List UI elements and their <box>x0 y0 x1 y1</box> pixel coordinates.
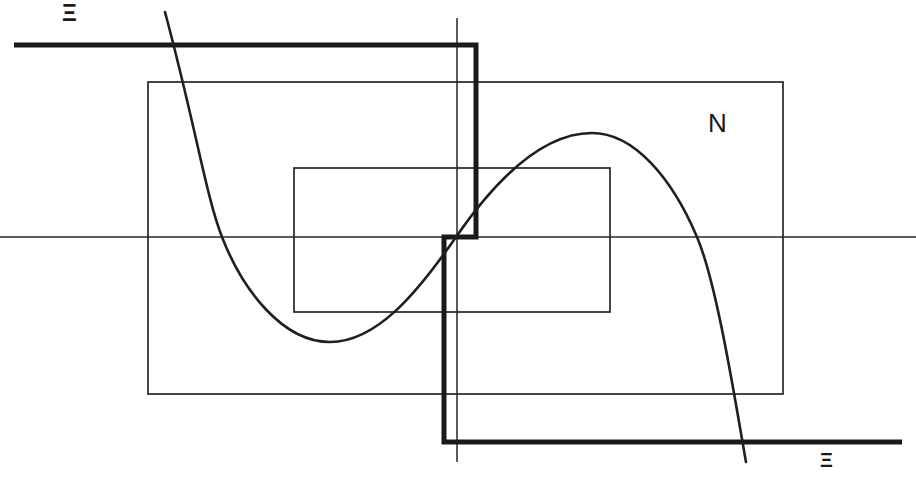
figure-drawing <box>0 0 916 480</box>
axis-label-xi-top: Ξ <box>62 2 77 25</box>
axis-label-xi-bottom: Ξ <box>820 450 833 470</box>
inner-rectangle <box>294 168 610 312</box>
figure-canvas: Ξ N Ξ <box>0 0 916 480</box>
region-label-n: N <box>708 110 727 136</box>
